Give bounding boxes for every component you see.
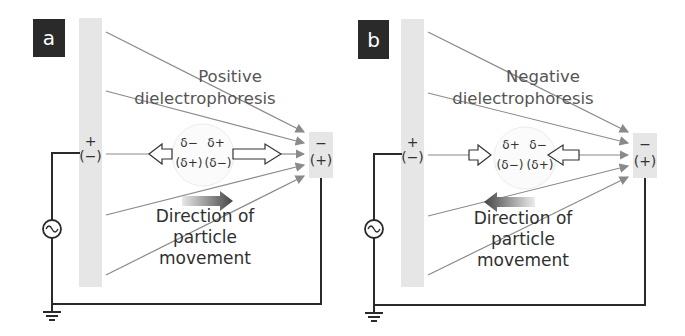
particle-charge-bottom-left: (δ−)	[495, 156, 525, 174]
ac-source-icon	[365, 220, 383, 238]
ground-icon	[365, 313, 383, 321]
left-electrode-bottom: (−)	[79, 148, 102, 165]
right-electrode-top: −	[633, 136, 657, 153]
particle-charge-top-left: δ+	[498, 136, 524, 154]
panel-label: b	[358, 20, 389, 59]
movement-label-line1: Direction of	[463, 208, 583, 229]
movement-label-line2: particle	[145, 227, 265, 248]
particle-charge-top-left: δ−	[176, 134, 202, 152]
ground-icon	[43, 312, 61, 320]
particle-charge-bottom-right: (δ+)	[525, 156, 555, 174]
force-arrow-left	[149, 144, 172, 164]
force-arrow-right	[469, 145, 491, 165]
title-line2: dielectrophoresis	[443, 89, 603, 109]
movement-label-line3: movement	[463, 250, 583, 271]
force-arrow-right	[233, 144, 281, 164]
movement-label-line1: Direction of	[145, 206, 265, 227]
particle-charge-top-right: δ+	[203, 134, 229, 152]
title-line1: Positive	[160, 67, 300, 87]
particle-charge-bottom-left: (δ+)	[174, 154, 204, 172]
panel-a: a Positive dielectrophoresis + (−) − (+)…	[0, 0, 342, 336]
panel-b: b Negative dielectrophoresis + (−) − (+)…	[323, 0, 665, 336]
particle-charge-bottom-right: (δ−)	[203, 154, 233, 172]
movement-label-line2: particle	[463, 229, 583, 250]
panel-label: a	[33, 19, 65, 57]
title-line1: Negative	[473, 67, 613, 87]
right-electrode-bottom: (+)	[633, 153, 657, 170]
movement-label-line3: movement	[145, 248, 265, 269]
title-line2: dielectrophoresis	[125, 89, 285, 109]
particle-charge-top-right: δ−	[525, 136, 551, 154]
ac-source-icon	[43, 220, 61, 238]
left-electrode-bottom: (−)	[401, 149, 424, 166]
